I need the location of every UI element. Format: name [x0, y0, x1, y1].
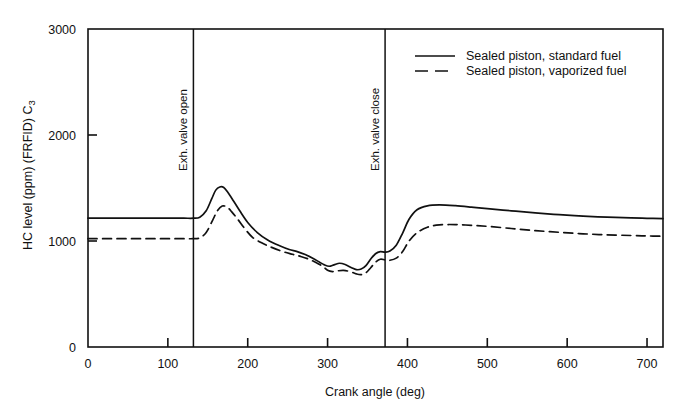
y-tick-label: 1000: [48, 235, 76, 249]
y-tick-label: 3000: [48, 23, 76, 37]
hc-level-vs-crank-angle-chart: 0100020003000 0100200300400500600700 Exh…: [0, 0, 686, 416]
legend-label-standard-fuel: Sealed piston, standard fuel: [466, 49, 621, 63]
x-tick-label: 400: [397, 357, 418, 371]
chart-figure: 0100020003000 0100200300400500600700 Exh…: [0, 0, 686, 416]
x-tick-label: 200: [237, 357, 258, 371]
x-tick-label: 300: [317, 357, 338, 371]
x-tick-label: 600: [557, 357, 578, 371]
y-axis-label: HC level (ppm) (FRFID) C3: [21, 100, 37, 250]
x-tick-label: 700: [637, 357, 658, 371]
x-tick-label: 100: [157, 357, 178, 371]
x-axis-label: Crank angle (deg): [325, 385, 425, 399]
x-tick-label: 500: [477, 357, 498, 371]
x-tick-label: 0: [85, 357, 92, 371]
vline-label-exh-valve-open: Exh. valve open: [177, 89, 189, 171]
legend-label-vaporized-fuel: Sealed piston, vaporized fuel: [466, 64, 627, 78]
y-tick-label: 2000: [48, 129, 76, 143]
y-tick-label: 0: [69, 341, 76, 355]
vline-label-exh-valve-close: Exh. valve close: [369, 88, 381, 171]
